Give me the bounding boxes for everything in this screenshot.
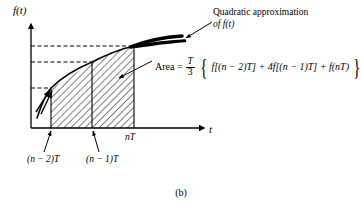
figure-quadratic-approximation-simpsons-rule: f(t) t (n − 2)T (n − 1)T nT Quadratic ap… [0, 0, 362, 211]
tick-label-n-minus-2-T: (n − 2)T [27, 155, 59, 165]
left-sample-leader-arrows [36, 90, 52, 114]
area-formula-label: Area = [155, 62, 183, 72]
fraction-denominator: 3 [186, 67, 195, 78]
y-axis-label: f(t) [13, 5, 26, 16]
x-axis-label: t [209, 124, 212, 135]
quadratic-annotation-leader [186, 22, 212, 38]
area-formula-body: f[(n − 2)T] + 4f[(n − 1)T] + f(nT) [211, 62, 349, 72]
figure-drawing-canvas [0, 0, 362, 211]
tick-label-n-T: nT [125, 133, 135, 143]
area-formula-fraction: T 3 [186, 57, 195, 78]
brace-open-icon: { [200, 58, 207, 77]
tick-label-n-minus-1-T: (n − 1)T [86, 155, 118, 165]
area-formula: Area = T 3 { f[(n − 2)T] + 4f[(n − 1)T] … [155, 57, 362, 78]
tick-leader-arrows [44, 131, 99, 152]
brace-close-icon: } [353, 58, 360, 77]
figure-caption: (b) [0, 188, 362, 198]
quadratic-annotation-line-2: of f(t) [213, 19, 308, 31]
fraction-numerator: T [186, 57, 195, 67]
quadratic-annotation-line-1: Quadratic approximation [213, 7, 308, 19]
quadratic-approximation-annotation: Quadratic approximation of f(t) [213, 7, 308, 31]
